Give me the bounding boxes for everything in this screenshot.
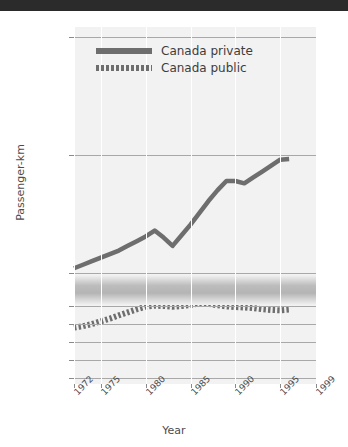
y-axis-tick-mark bbox=[69, 306, 74, 307]
chart-figure: Passenger-km Year 5 00010 00015 00001002… bbox=[0, 11, 348, 447]
plot-area: 5 00010 00015 00001002003004001972197519… bbox=[74, 27, 316, 384]
series-line-canada-private bbox=[74, 159, 289, 268]
gridline-vertical bbox=[74, 27, 75, 384]
window-title-bar bbox=[0, 0, 348, 11]
y-axis-tick-mark bbox=[69, 342, 74, 343]
y-axis-tick-mark bbox=[69, 155, 74, 156]
x-axis-tick-label: 1999 bbox=[314, 374, 337, 397]
gridline-vertical bbox=[235, 27, 236, 384]
x-axis-title: Year bbox=[0, 424, 348, 437]
legend-item-canada-public: Canada public bbox=[96, 59, 253, 76]
legend-item-canada-private: Canada private bbox=[96, 42, 253, 59]
y-axis-title: Passenger-km bbox=[14, 123, 27, 243]
y-axis-tick-mark bbox=[69, 324, 74, 325]
y-axis-tick-mark bbox=[69, 378, 74, 379]
gridline-vertical bbox=[316, 27, 317, 384]
legend-swatch-solid-icon bbox=[96, 45, 152, 56]
y-axis-tick-mark bbox=[69, 273, 74, 274]
gridline-vertical bbox=[191, 27, 192, 384]
gridline-vertical bbox=[146, 27, 147, 384]
y-axis-tick-mark bbox=[69, 37, 74, 38]
legend-label-canada-private: Canada private bbox=[161, 44, 253, 58]
gridline-vertical bbox=[101, 27, 102, 384]
gridline-vertical bbox=[280, 27, 281, 384]
y-axis-tick-mark bbox=[69, 360, 74, 361]
legend-label-canada-public: Canada public bbox=[161, 61, 247, 75]
legend-swatch-dotted-icon bbox=[96, 62, 152, 73]
chart-legend: Canada private Canada public bbox=[96, 42, 253, 76]
